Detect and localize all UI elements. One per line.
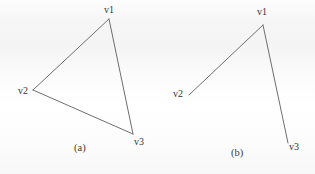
figure-b-caption: (b) (231, 147, 243, 159)
edge-a-v2-v3 (33, 90, 133, 134)
figure-b-vertex-label-v1: v1 (257, 6, 267, 17)
figure-a-edges (33, 19, 133, 134)
figure-a-vertex-label-v2: v2 (18, 85, 28, 96)
figure-b-edges (189, 25, 288, 143)
edge-a-v1-v2 (33, 19, 109, 90)
figure-sheet: v1 v2 v3 (a) v1 v2 v3 (b) (0, 0, 315, 174)
figure-a-vertex-label-v3: v3 (134, 136, 144, 147)
figure-a-vertex-label-v1: v1 (104, 4, 114, 15)
edge-a-v3-v1 (109, 19, 133, 134)
figure-b-vertex-label-v2: v2 (173, 88, 183, 99)
edge-b-v1-v3 (263, 25, 288, 143)
figure-b-vertex-label-v3: v3 (289, 141, 299, 152)
figure-a-caption: (a) (74, 142, 86, 154)
figure-a-canvas (0, 0, 315, 174)
edge-b-v2-v1 (189, 25, 263, 95)
